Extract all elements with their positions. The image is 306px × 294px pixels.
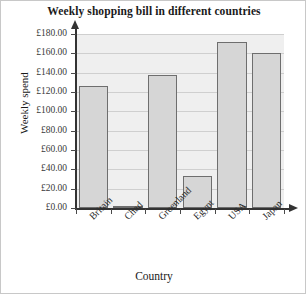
y-axis-tick-label: £100.00 [7,106,67,116]
y-axis-tick-label: £40.00 [7,164,67,174]
bar-slot [148,34,178,208]
x-axis-tick [284,209,285,214]
x-axis-tick [215,209,216,214]
y-axis-tick-label: £120.00 [7,87,67,97]
y-axis-tick-label: £140.00 [7,68,67,78]
y-axis-tick [71,111,76,112]
y-axis-tick-label: £80.00 [7,126,67,136]
bar-slot [113,34,143,208]
y-axis-tick [71,169,76,170]
bar-japan [252,53,282,208]
y-axis-tick-label: £0.00 [7,203,67,213]
x-axis-arrow-icon [289,204,298,212]
bar-slot [217,34,247,208]
y-axis-tick [71,189,76,190]
x-axis-tick [111,209,112,214]
bar-greenland [148,75,178,208]
y-axis-tick [71,131,76,132]
y-axis-arrow-icon [71,20,79,29]
y-axis-tick-label: £180.00 [7,29,67,39]
x-axis-title: Country [1,270,306,282]
y-axis-tick-label: £20.00 [7,184,67,194]
chart-title: Weekly shopping bill in different countr… [1,5,306,17]
bars-container [76,34,284,208]
bar-slot [252,34,282,208]
y-axis-tick [71,34,76,35]
y-axis-tick [71,53,76,54]
bar-britain [79,86,109,208]
y-axis-line [75,28,77,209]
x-axis-tick [145,209,146,214]
x-axis-tick [180,209,181,214]
bar-usa [217,42,247,208]
x-axis-tick [76,209,77,214]
plot-area [76,34,284,208]
bar-slot [183,34,213,208]
y-axis-tick [71,92,76,93]
y-axis-title: Weekly spend [18,48,30,158]
y-axis-tick-label: £160.00 [7,48,67,58]
bar-slot [79,34,109,208]
y-axis-tick [71,73,76,74]
y-axis-tick [71,150,76,151]
bar-chart-figure: Weekly shopping bill in different countr… [0,0,306,294]
y-axis-tick-label: £60.00 [7,145,67,155]
x-axis-tick [249,209,250,214]
